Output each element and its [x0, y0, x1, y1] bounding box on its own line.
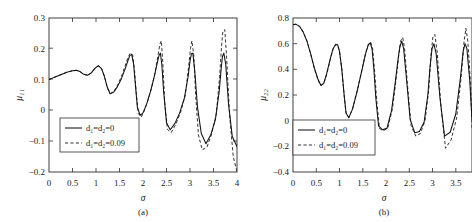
x-axis-label-b: σ [382, 193, 387, 203]
x-tick-label-b-0: 0 [291, 178, 296, 188]
y-tick-label-b-5: 0.6 [278, 39, 290, 49]
y-tick-label-a-5: 0.3 [34, 13, 46, 23]
x-tick-label-a-0: 0 [47, 178, 52, 188]
y-tick-label-a-4: 0.2 [34, 44, 45, 54]
legend-label-b-1: d₁=d₂=0.09 [319, 140, 358, 150]
x-tick-label-b-2: 1 [337, 178, 342, 188]
x-tick-label-b-4: 2 [384, 178, 389, 188]
y-tick-label-b-2: 0 [285, 116, 290, 126]
plot-b-svg: μ₂₂ 0.8 0.6 0.4 0.2 0 −0.2 −0.4 0 0.5 1 … [244, 0, 472, 222]
x-tick-label-a-8: 4 [235, 178, 240, 188]
chart-panel-b: μ₂₂ 0.8 0.6 0.4 0.2 0 −0.2 −0.4 0 0.5 1 … [244, 0, 472, 222]
y-tick-label-b-3: 0.2 [278, 90, 289, 100]
chart-panel-a: μ₁₁ 0.3 0.2 0.1 0 −0.1 −0.2 0 0.5 1 1.5 … [0, 0, 250, 222]
legend-label-b-0: d₁=d₂=0 [319, 125, 347, 135]
legend-a: d₁=d₂=0 d₁=d₂=0.09 [60, 118, 139, 152]
y-axis-label-a: μ₁₁ [14, 89, 24, 101]
legend-b: d₁=d₂=0 d₁=d₂=0.09 [293, 120, 375, 155]
x-tick-label-a-1: 0.5 [67, 178, 79, 188]
curve-b-solid [293, 24, 472, 136]
legend-label-a-0: d₁=d₂=0 [86, 123, 114, 133]
y-tick-label-a-1: −0.1 [29, 136, 45, 146]
x-tick-label-b-5: 2.5 [404, 178, 416, 188]
x-tick-label-a-7: 3.5 [208, 178, 220, 188]
y-tick-label-a-3: 0.1 [34, 75, 45, 85]
x-tick-label-b-7: 3.5 [450, 178, 462, 188]
y-tick-label-b-6: 0.8 [278, 13, 290, 23]
panel-caption-b: (b) [379, 207, 390, 217]
y-tick-label-a-2: 0 [41, 105, 46, 115]
panel-caption-a: (a) [138, 207, 148, 217]
y-tick-label-a-0: −0.2 [29, 167, 45, 177]
x-tick-label-b-1: 0.5 [311, 178, 323, 188]
x-tick-label-a-5: 2.5 [161, 178, 173, 188]
figure-container: μ₁₁ 0.3 0.2 0.1 0 −0.1 −0.2 0 0.5 1 1.5 … [0, 0, 472, 222]
x-tick-label-a-3: 1.5 [114, 178, 126, 188]
x-tick-label-b-3: 1.5 [357, 178, 369, 188]
legend-label-a-1: d₁=d₂=0.09 [86, 138, 125, 148]
y-axis-label-b: μ₂₂ [258, 89, 268, 102]
plot-a-svg: μ₁₁ 0.3 0.2 0.1 0 −0.1 −0.2 0 0.5 1 1.5 … [0, 0, 250, 222]
y-tick-label-b-0: −0.4 [273, 167, 290, 177]
x-tick-label-a-2: 1 [94, 178, 99, 188]
x-tick-label-b-6: 3 [430, 178, 435, 188]
x-axis-label-a: σ [141, 193, 146, 203]
x-tick-label-a-6: 3 [188, 178, 193, 188]
x-tick-label-a-4: 2 [141, 178, 146, 188]
y-tick-label-b-1: −0.2 [273, 141, 289, 151]
y-tick-label-b-4: 0.4 [278, 64, 290, 74]
